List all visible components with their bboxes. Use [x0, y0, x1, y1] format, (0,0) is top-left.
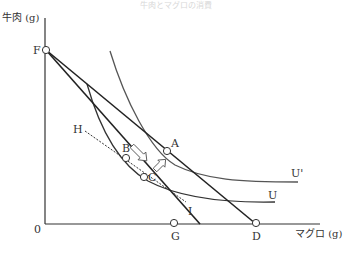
origin-label: 0: [34, 223, 41, 236]
indifference-curve-diagram: 牛肉とマグロの消費 牛肉 (g) マグロ (g) 0 F A B C G D H…: [0, 0, 352, 253]
label-a: A: [170, 137, 180, 150]
y-axis-label: 牛肉 (g): [2, 11, 39, 23]
indifference-curve-u-prime: [110, 51, 298, 182]
point-b: [122, 154, 129, 161]
label-d: D: [252, 230, 261, 243]
diagram-caption: 牛肉とマグロの消費: [140, 0, 212, 10]
budget-line-fd: [46, 50, 256, 224]
label-h: H: [73, 123, 83, 136]
label-u-prime: U': [291, 167, 303, 180]
label-f: F: [33, 44, 41, 57]
label-u: U: [268, 189, 277, 202]
point-d: [252, 219, 259, 226]
indifference-curve-u: [87, 84, 275, 202]
point-f: [42, 46, 49, 53]
label-b: B: [122, 142, 130, 155]
point-g: [170, 219, 177, 226]
label-c: C: [148, 171, 156, 184]
point-a: [163, 147, 170, 154]
x-axis-label: マグロ (g): [295, 227, 342, 239]
label-i: I: [188, 205, 192, 218]
label-g: G: [171, 230, 180, 243]
point-c: [140, 173, 147, 180]
